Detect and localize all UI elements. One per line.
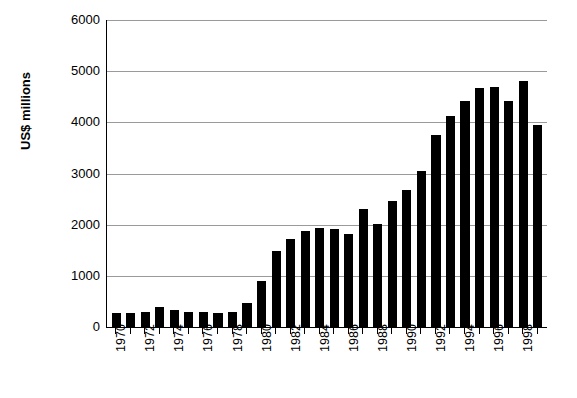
x-tick-mark (449, 328, 450, 334)
x-label-slot (471, 336, 486, 396)
bar (533, 125, 542, 327)
bar-slot (225, 20, 240, 327)
bar-slot (487, 20, 502, 327)
x-label-slot: 1996 (486, 336, 501, 396)
x-tick-mark (217, 328, 218, 334)
bar-slot (283, 20, 298, 327)
x-label-slot (326, 336, 341, 396)
bar-slot (414, 20, 429, 327)
x-label-slot: 1994 (457, 336, 472, 396)
bar (344, 234, 353, 327)
bar (504, 101, 513, 327)
bar (272, 251, 281, 327)
bar-slot (153, 20, 168, 327)
y-tick-label: 5000 (56, 64, 100, 77)
x-label-slot: 1988 (370, 336, 385, 396)
x-tick-mark (159, 328, 160, 334)
x-label-slot: 1972 (137, 336, 152, 396)
bar (315, 228, 324, 327)
x-tick-mark (420, 328, 421, 334)
bar-slot (400, 20, 415, 327)
bar-chart: US$ millions 6000500040003000200010000 1… (0, 0, 577, 398)
bar (373, 224, 382, 327)
y-tick-label: 0 (56, 320, 100, 333)
bar-series (107, 20, 547, 327)
x-label-slot (210, 336, 225, 396)
x-label-slot: 1980 (253, 336, 268, 396)
bar-slot (298, 20, 313, 327)
bar-slot (458, 20, 473, 327)
x-label-slot (384, 336, 399, 396)
bar (460, 101, 469, 327)
bar-slot (211, 20, 226, 327)
x-label-slot: 1984 (311, 336, 326, 396)
bar-slot (472, 20, 487, 327)
x-tick-mark (130, 328, 131, 334)
bar-slot (138, 20, 153, 327)
bar-slot (356, 20, 371, 327)
x-label-slot: 1978 (224, 336, 239, 396)
x-tick-mark (479, 328, 480, 334)
bar (301, 231, 310, 327)
bar-slot (167, 20, 182, 327)
x-label-slot: 1974 (166, 336, 181, 396)
x-tick-mark (333, 328, 334, 334)
bar (417, 171, 426, 327)
bar-slot (443, 20, 458, 327)
x-label-slot (297, 336, 312, 396)
x-tick-mark (508, 328, 509, 334)
x-label-slot: 1982 (282, 336, 297, 396)
bar-slot (501, 20, 516, 327)
bar-slot (240, 20, 255, 327)
bar-slot (516, 20, 531, 327)
bar (330, 229, 339, 327)
x-label-slot: 1970 (108, 336, 123, 396)
y-tick-label: 4000 (56, 115, 100, 128)
x-label-slot (239, 336, 254, 396)
x-axis-tick-labels: 1970197219741976197819801982198419861988… (106, 336, 546, 396)
bar-slot (196, 20, 211, 327)
bar-slot (124, 20, 139, 327)
x-tick-mark (537, 328, 538, 334)
x-label-slot: 1998 (515, 336, 530, 396)
x-tick-mark (304, 328, 305, 334)
y-tick-label: 1000 (56, 269, 100, 282)
x-label-slot: 1992 (428, 336, 443, 396)
bar (257, 281, 266, 327)
x-label-slot: 1986 (341, 336, 356, 396)
bar-slot (109, 20, 124, 327)
x-label-slot (152, 336, 167, 396)
bar-slot (254, 20, 269, 327)
bar-slot (342, 20, 357, 327)
x-label-slot (500, 336, 515, 396)
y-tick-label: 6000 (56, 13, 100, 26)
y-axis-tick-labels: 6000500040003000200010000 (48, 0, 100, 398)
y-tick-label: 3000 (56, 167, 100, 180)
x-label-slot (529, 336, 544, 396)
x-label-slot (413, 336, 428, 396)
bar-slot (429, 20, 444, 327)
x-label-slot (123, 336, 138, 396)
x-label-slot (268, 336, 283, 396)
x-label-slot: 1976 (195, 336, 210, 396)
x-tick-mark (275, 328, 276, 334)
plot-area (106, 20, 547, 328)
bar (475, 88, 484, 327)
bar (286, 239, 295, 327)
bar (402, 190, 411, 327)
x-tick-mark (246, 328, 247, 334)
bar (446, 116, 455, 327)
bar-slot (385, 20, 400, 327)
bar-slot (312, 20, 327, 327)
bar-slot (327, 20, 342, 327)
bar-slot (530, 20, 545, 327)
x-label-slot (442, 336, 457, 396)
y-axis-title: US$ millions (18, 0, 38, 150)
bar-slot (269, 20, 284, 327)
x-tick-mark (188, 328, 189, 334)
bar (490, 87, 499, 327)
y-tick-label: 2000 (56, 218, 100, 231)
bar (431, 135, 440, 327)
bar-slot (371, 20, 386, 327)
bar-slot (182, 20, 197, 327)
